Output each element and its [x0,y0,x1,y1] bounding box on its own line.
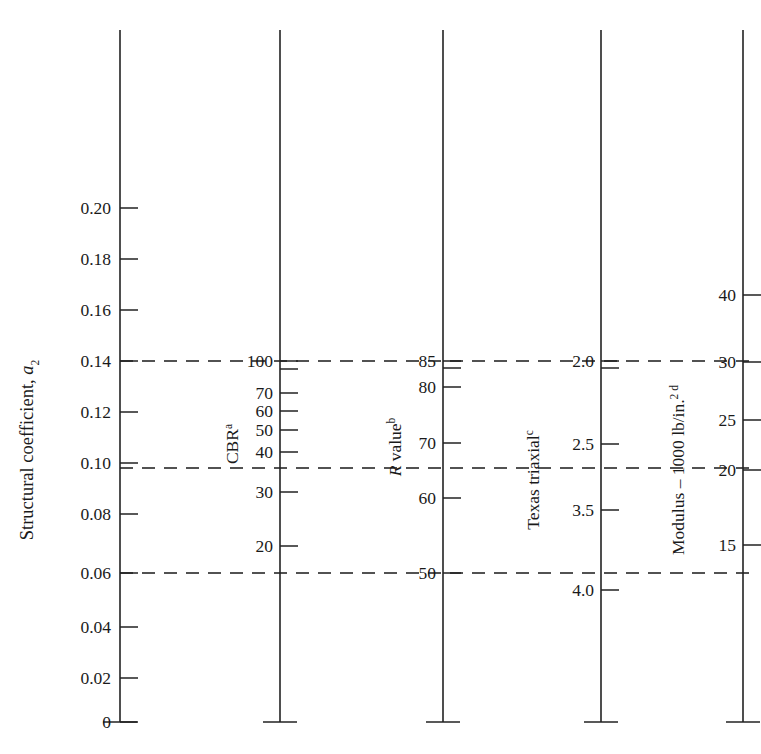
tick-label-cbr-60: 60 [256,401,274,421]
tick-label-structural-coefficient-0.08: 0.08 [80,504,111,524]
axis-title-structural-coefficient: Structural coefficient, a2 [17,359,41,540]
axis-title-cbr: CBRa [222,424,242,464]
tick-label-r-value-50: 50 [419,563,437,583]
tick-label-structural-coefficient-0.18: 0.18 [80,249,111,269]
axis-tick-labels: 0.200.180.160.140.120.100.080.060.040.02… [80,198,736,732]
tick-label-structural-coefficient-0.12: 0.12 [80,402,111,422]
axis-title-r-value: R valueb [385,417,405,477]
axis-ticks [120,208,761,722]
tick-label-texas-triaxial-4.0: 4.0 [572,580,594,600]
tick-label-structural-coefficient-0.06: 0.06 [80,563,111,583]
axis-title-texas-triaxial: Texas triaxialc [523,430,543,530]
axis-title-modulus: Modulus – 1000 lb/in.2 d [668,385,688,555]
tick-label-r-value-70: 70 [419,433,437,453]
tick-label-r-value-60: 60 [419,488,437,508]
nomograph-canvas: 0.200.180.160.140.120.100.080.060.040.02… [0,0,761,754]
tick-label-modulus-25: 25 [719,410,737,430]
tick-label-cbr-50: 50 [256,420,274,440]
tick-label-cbr-30: 30 [256,482,274,502]
tick-label-r-value-85: 85 [419,351,437,371]
tick-label-structural-coefficient-0: 0 [102,712,111,732]
tick-label-cbr-100: 100 [247,351,274,371]
tick-label-modulus-40: 40 [719,285,737,305]
tick-label-texas-triaxial-2.5: 2.5 [572,434,594,454]
axis-lines [103,30,760,722]
tick-label-cbr-70: 70 [256,383,274,403]
tick-label-modulus-30: 30 [719,352,737,372]
tick-label-structural-coefficient-0.14: 0.14 [80,351,111,371]
tick-label-r-value-80: 80 [419,377,437,397]
tick-label-structural-coefficient-0.10: 0.10 [80,453,111,473]
tick-label-cbr-20: 20 [256,536,274,556]
tick-label-modulus-20: 20 [719,460,737,480]
tick-label-structural-coefficient-0.16: 0.16 [80,300,111,320]
tick-label-texas-triaxial-3.5: 3.5 [572,500,594,520]
tick-label-structural-coefficient-0.20: 0.20 [80,198,111,218]
tick-label-cbr-40: 40 [256,442,274,462]
tick-label-structural-coefficient-0.02: 0.02 [80,668,111,688]
tick-label-texas-triaxial-2.0: 2.0 [572,351,594,371]
nomograph-chart: 0.200.180.160.140.120.100.080.060.040.02… [0,0,761,754]
tick-label-structural-coefficient-0.04: 0.04 [80,617,111,637]
axis-titles: Structural coefficient, a2CBRaR valuebTe… [17,359,688,555]
tick-label-modulus-15: 15 [719,535,737,555]
